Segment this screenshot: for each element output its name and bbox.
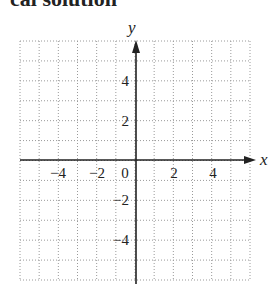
y-axis-label: y [126, 18, 136, 37]
coordinate-plane: x y −4 −2 0 2 4 4 2 −2 −4 [0, 0, 280, 284]
x-tick-label: −2 [89, 165, 105, 181]
x-tick-label: 0 [121, 165, 129, 181]
y-tick-label: −4 [113, 232, 129, 248]
y-tick-label: 2 [122, 113, 130, 129]
y-tick-label: 4 [122, 73, 130, 89]
x-axis-arrow-icon [244, 156, 256, 164]
x-tick-label: 4 [209, 165, 217, 181]
x-tick-label: 2 [170, 165, 178, 181]
y-tick-label: −2 [113, 192, 129, 208]
x-axis-label: x [259, 150, 268, 169]
x-tick-label: −4 [50, 165, 66, 181]
y-axis-arrow-icon [132, 40, 140, 53]
